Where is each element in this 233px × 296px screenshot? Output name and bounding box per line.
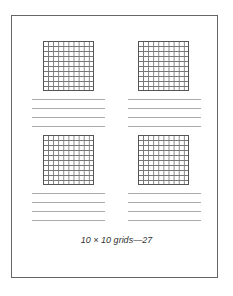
write-line [32, 108, 105, 109]
write-line [128, 202, 201, 203]
write-line [32, 99, 105, 100]
write-line [128, 211, 201, 212]
write-line [128, 99, 201, 100]
grid-top-right [138, 41, 189, 91]
grid-bottom-right [138, 135, 189, 185]
write-line [128, 193, 201, 194]
caption: 10 × 10 grids—27 [0, 235, 233, 245]
write-line [128, 117, 201, 118]
write-line [128, 108, 201, 109]
write-line [128, 126, 201, 127]
write-line [32, 202, 105, 203]
write-line [32, 126, 105, 127]
write-line [32, 193, 105, 194]
write-line [32, 220, 105, 221]
grid-bottom-left [43, 135, 94, 185]
grid-top-left [43, 41, 94, 91]
write-line [32, 117, 105, 118]
write-line [32, 211, 105, 212]
write-line [128, 220, 201, 221]
